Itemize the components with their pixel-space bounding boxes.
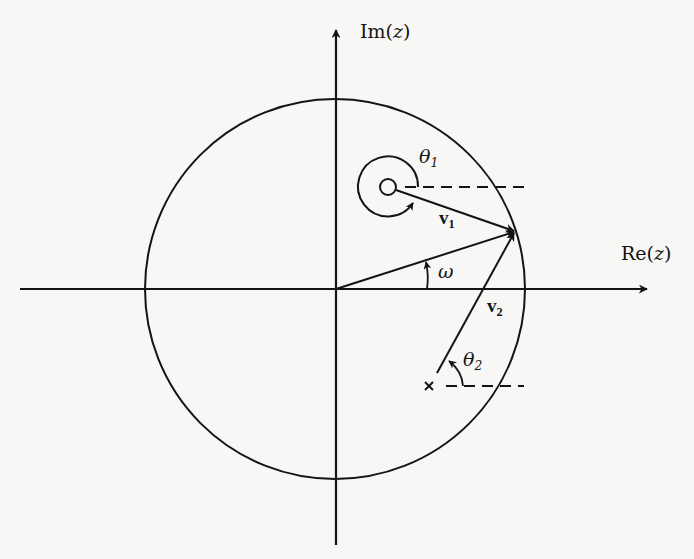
pole-marker-icon (425, 382, 433, 390)
z-plane-diagram (0, 0, 694, 559)
imag-axis-label: Im(z) (360, 22, 410, 41)
zero-marker-icon (380, 179, 396, 195)
v1-vector (396, 190, 514, 231)
omega-label: ω (438, 262, 454, 281)
theta1-label: θ1 (419, 147, 438, 170)
theta2-label: θ2 (463, 350, 482, 373)
omega-angle-arc (426, 262, 428, 289)
v1-label: v1 (439, 208, 455, 231)
v2-label: v2 (487, 296, 503, 319)
real-axis-label: Re(z) (621, 244, 671, 263)
theta2-angle-arc (449, 361, 463, 386)
